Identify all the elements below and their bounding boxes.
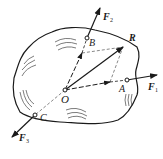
svg-text:1: 1 (155, 87, 158, 93)
point-c-marker (33, 113, 37, 117)
force-f1-arrow (127, 75, 157, 80)
resultant-vector (65, 47, 123, 90)
force-diagram: O A B C R F 1 F 2 F 3 (0, 0, 163, 159)
force-f2-arrow (87, 8, 100, 38)
label-c: C (40, 112, 47, 123)
label-a: A (118, 83, 126, 94)
svg-text:F: F (18, 132, 26, 143)
label-o: O (61, 93, 69, 105)
label-f3: F 3 (18, 132, 29, 144)
point-a-marker (125, 78, 129, 82)
label-f1: F 1 (147, 81, 158, 93)
body-grain-marks (20, 38, 132, 119)
svg-text:F: F (102, 11, 110, 22)
component-ob-vector (65, 53, 82, 90)
rigid-body-outline (13, 28, 139, 124)
component-oa-extension (110, 80, 127, 82)
component-oa-vector (65, 82, 110, 90)
label-b: B (89, 37, 95, 48)
diagram-canvas: O A B C R F 1 F 2 F 3 (0, 0, 163, 159)
point-o-marker (63, 88, 67, 92)
label-f2: F 2 (102, 11, 113, 23)
svg-text:F: F (147, 81, 155, 92)
label-r: R (128, 32, 136, 43)
svg-text:3: 3 (26, 138, 29, 144)
svg-text:2: 2 (110, 17, 113, 23)
